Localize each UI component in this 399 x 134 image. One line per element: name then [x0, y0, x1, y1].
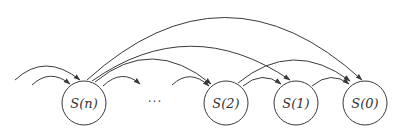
- edge-s2-to-s0: [238, 60, 350, 83]
- node-label: S(n): [70, 96, 97, 111]
- edge-s1-to-s0: [312, 77, 349, 86]
- node-s-n: S(n): [62, 81, 106, 125]
- node-s-0: S(0): [343, 81, 387, 125]
- node-s-1: S(1): [274, 81, 318, 125]
- node-label: S(0): [351, 96, 378, 111]
- state-diagram: S(n) ··· S(2) S(1) S(0): [0, 0, 399, 134]
- edge-sn-to-s0: [87, 18, 362, 81]
- node-label: S(2): [212, 96, 239, 111]
- edge-sn-to-s1: [92, 46, 290, 81]
- edge-incoming-outer: [15, 66, 80, 80]
- edge-sn-to-s2: [95, 59, 211, 84]
- edge-sn-to-ellipsis: [103, 76, 140, 86]
- edge-incoming-inner: [32, 76, 70, 85]
- ellipsis: ···: [148, 95, 162, 109]
- node-label: S(1): [282, 96, 309, 111]
- node-s-2: S(2): [204, 81, 248, 125]
- edge-s2-to-s1: [243, 77, 281, 86]
